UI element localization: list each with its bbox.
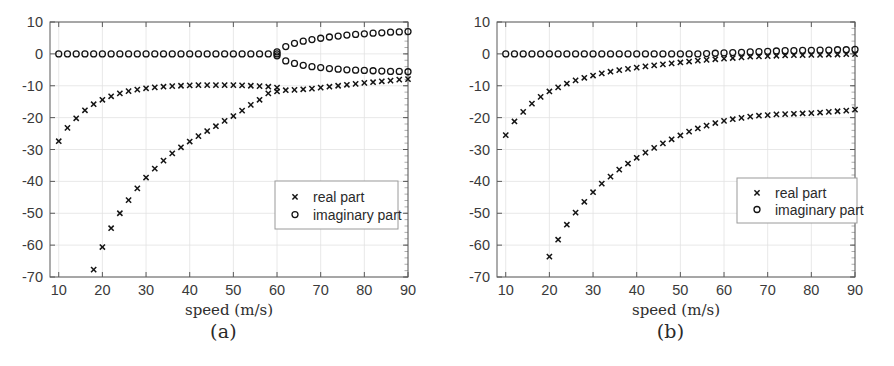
data-point-x xyxy=(625,66,630,71)
data-point-o xyxy=(738,49,744,55)
data-point-x xyxy=(196,83,201,88)
data-point-x xyxy=(695,126,700,131)
data-point-x xyxy=(529,101,534,106)
legend: real partimaginary part xyxy=(737,178,864,223)
data-point-x xyxy=(652,63,657,68)
data-point-x xyxy=(152,166,157,171)
data-point-o xyxy=(309,37,315,43)
data-point-x xyxy=(266,91,271,96)
data-point-x xyxy=(170,151,175,156)
x-axis-title: speed (m/s) xyxy=(185,301,273,319)
data-point-x xyxy=(791,111,796,116)
data-point-x xyxy=(660,141,665,146)
y-tick-label: -20 xyxy=(469,110,490,126)
data-point-o xyxy=(782,48,788,54)
x-tick-label: 90 xyxy=(400,282,416,298)
x-tick-label: 40 xyxy=(182,282,198,298)
data-point-x xyxy=(704,57,709,62)
y-tick-label: -60 xyxy=(469,237,490,253)
data-point-o xyxy=(353,31,359,37)
y-tick-label: -60 xyxy=(22,237,43,253)
data-point-x xyxy=(126,89,131,94)
data-point-x xyxy=(704,123,709,128)
x-tick-label: 10 xyxy=(498,282,514,298)
x-tick-label: 70 xyxy=(313,282,329,298)
data-point-x xyxy=(512,119,517,124)
plot-a: 102030405060708090100-10-20-30-40-50-60-… xyxy=(0,0,447,320)
data-point-o xyxy=(291,40,297,46)
data-point-x xyxy=(91,267,96,272)
data-point-x xyxy=(625,161,630,166)
data-point-o xyxy=(344,67,350,73)
data-point-x xyxy=(178,145,183,150)
data-point-x xyxy=(835,109,840,114)
y-tick-label: -20 xyxy=(22,110,43,126)
data-point-o xyxy=(791,48,797,54)
data-point-x xyxy=(309,86,314,91)
data-point-x xyxy=(695,58,700,63)
y-tick-label: -10 xyxy=(469,78,490,94)
y-tick-label: -50 xyxy=(22,205,43,221)
data-point-x xyxy=(521,109,526,114)
x-tick-label: 10 xyxy=(51,282,67,298)
data-point-x xyxy=(379,79,384,84)
y-tick-label: -50 xyxy=(469,205,490,221)
data-point-x xyxy=(783,112,788,117)
data-point-o xyxy=(309,64,315,70)
legend-label-real: real part xyxy=(775,185,826,201)
data-point-x xyxy=(213,124,218,129)
data-point-x xyxy=(283,88,288,93)
x-tick-label: 80 xyxy=(803,282,819,298)
x-tick-label: 30 xyxy=(585,282,601,298)
data-point-x xyxy=(617,68,622,73)
data-point-o xyxy=(800,47,806,53)
data-point-x xyxy=(582,199,587,204)
data-point-x xyxy=(205,128,210,133)
x-tick-label: 40 xyxy=(629,282,645,298)
data-point-x xyxy=(556,237,561,242)
plot-area: 102030405060708090100-10-20-30-40-50-60-… xyxy=(469,14,864,319)
data-point-x xyxy=(257,97,262,102)
data-point-x xyxy=(686,129,691,134)
data-point-o xyxy=(379,30,385,36)
data-point-x xyxy=(135,87,140,92)
data-point-x xyxy=(800,111,805,116)
data-point-o xyxy=(326,66,332,72)
x-tick-label: 20 xyxy=(541,282,557,298)
data-point-x xyxy=(126,198,131,203)
x-tick-label: 30 xyxy=(138,282,154,298)
x-tick-label: 20 xyxy=(94,282,110,298)
y-tick-label: -10 xyxy=(22,78,43,94)
data-point-x xyxy=(161,84,166,89)
y-tick-label: -30 xyxy=(469,142,490,158)
data-point-x xyxy=(599,71,604,76)
x-tick-label: 60 xyxy=(716,282,732,298)
data-point-o xyxy=(712,50,718,56)
data-point-x xyxy=(582,75,587,80)
data-point-x xyxy=(748,114,753,119)
data-point-x xyxy=(135,186,140,191)
y-tick-label: -40 xyxy=(22,173,43,189)
data-point-o xyxy=(353,67,359,73)
figure-two-panel: 102030405060708090100-10-20-30-40-50-60-… xyxy=(0,0,894,366)
data-point-x xyxy=(266,84,271,89)
data-point-o xyxy=(843,47,849,53)
data-point-x xyxy=(74,116,79,121)
x-axis-title: speed (m/s) xyxy=(632,301,720,319)
data-point-o xyxy=(773,48,779,54)
series-o-upper xyxy=(274,29,411,55)
data-point-x xyxy=(564,222,569,227)
data-point-x xyxy=(844,108,849,113)
series-o-lower xyxy=(274,53,411,75)
data-point-x xyxy=(161,158,166,163)
data-point-x xyxy=(713,120,718,125)
plot-b: 102030405060708090100-10-20-30-40-50-60-… xyxy=(447,0,894,320)
data-point-x xyxy=(826,109,831,114)
data-point-x xyxy=(774,112,779,117)
data-point-x xyxy=(686,59,691,64)
data-point-x xyxy=(608,69,613,74)
data-point-x xyxy=(196,134,201,139)
data-point-o xyxy=(817,47,823,53)
y-tick-label: -70 xyxy=(22,269,43,285)
data-point-o xyxy=(283,58,289,64)
